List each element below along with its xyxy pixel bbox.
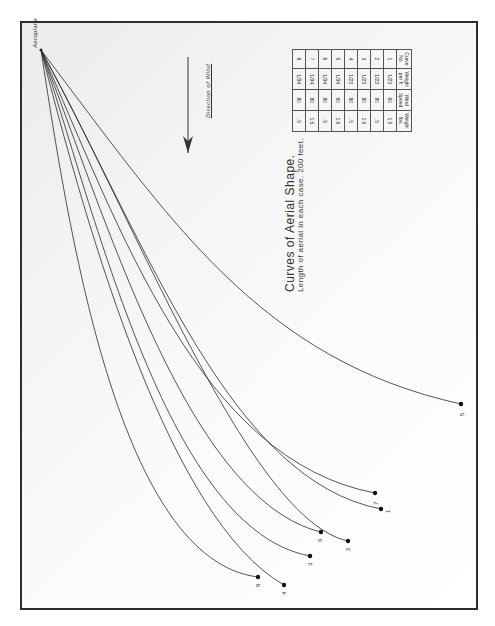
table-header-row: Curve No. Weight per ft. Wind Speed Weig… <box>397 50 412 132</box>
curve-label-6: 6 <box>317 539 323 542</box>
table-cell: 80 <box>306 90 319 110</box>
table-row: 51/34601.5 <box>332 50 345 132</box>
curve-8 <box>41 50 258 577</box>
wind-direction-label: Direction of Wind <box>205 64 211 118</box>
table-cell: 60 <box>384 90 397 110</box>
table-cell: .5 <box>345 110 358 131</box>
table-row: 81/3480.5 <box>293 50 306 132</box>
endpoint-5 <box>459 402 463 406</box>
table-cell: 6 <box>319 50 332 69</box>
table-cell: 1/34 <box>306 68 319 89</box>
table-cell: 1.5 <box>332 110 345 131</box>
table-cell: 3 <box>358 50 371 69</box>
table-row: 71/34801.5 <box>306 50 319 132</box>
table-cell: 80 <box>293 90 306 110</box>
table-cell: .5 <box>319 110 332 131</box>
curve-label-2: 2 <box>345 548 351 551</box>
diagram-title: Curves of Aerial Shape. <box>283 154 297 292</box>
table-cell: 1/23 <box>384 68 397 89</box>
table-cell: 1/23 <box>345 68 358 89</box>
curve-3 <box>41 50 310 556</box>
table-row: 11/23601.5 <box>384 50 397 132</box>
table-cell: 80 <box>371 90 384 110</box>
table-header: Weight lbs. <box>397 110 412 131</box>
endpoint-7 <box>373 491 377 495</box>
curve-label-4: 4 <box>281 592 287 595</box>
table-cell: .5 <box>293 110 306 131</box>
curve-label-3: 3 <box>307 563 313 566</box>
table-cell: 1 <box>384 50 397 69</box>
table-cell: 1.5 <box>306 110 319 131</box>
table-cell: 1/23 <box>358 68 371 89</box>
diagram-subtitle: Length of aerial in each case. 200 feet. <box>296 138 305 292</box>
table-cell: 5 <box>332 50 345 69</box>
table-cell: 1.5 <box>384 110 397 131</box>
aerial-curves-diagram <box>0 0 495 626</box>
table-cell: 1/34 <box>293 68 306 89</box>
wind-arrow-icon <box>183 57 193 153</box>
table-row: 31/23801.5 <box>358 50 371 132</box>
endpoint-4 <box>282 583 286 587</box>
curve-label-5: 5 <box>459 413 465 416</box>
table-cell: 2 <box>371 50 384 69</box>
curve-parameters-table: Curve No. Weight per ft. Wind Speed Weig… <box>292 49 412 132</box>
endpoint-6 <box>319 530 323 534</box>
endpoint-2 <box>346 539 350 543</box>
table-cell: 80 <box>358 90 371 110</box>
aeroplane-label: Aeroplane <box>32 18 38 48</box>
curve-label-1: 1 <box>385 510 391 513</box>
table-row: 21/2380.5 <box>371 50 384 132</box>
curve-label-8: 8 <box>255 584 261 587</box>
endpoint-3 <box>308 554 312 558</box>
table-row: 61/3480.5 <box>319 50 332 132</box>
table-header: Curve No. <box>397 50 412 69</box>
table-cell: 1/34 <box>319 68 332 89</box>
table-cell: 4 <box>345 50 358 69</box>
table-cell: 60 <box>332 90 345 110</box>
table-header: Weight per ft. <box>397 68 412 89</box>
curve-label-7: 7 <box>373 502 379 505</box>
endpoint-8 <box>256 575 260 579</box>
table-header: Wind Speed <box>397 90 412 110</box>
table-cell: 7 <box>306 50 319 69</box>
endpoint-1 <box>379 507 383 511</box>
table-cell: 1.5 <box>358 110 371 131</box>
table-cell: 80 <box>319 90 332 110</box>
table-cell: 1/23 <box>371 68 384 89</box>
table-cell: 1/34 <box>332 68 345 89</box>
table-cell: .5 <box>371 110 384 131</box>
table-cell: 80 <box>345 90 358 110</box>
table-row: 41/2380.5 <box>345 50 358 132</box>
table-cell: 8 <box>293 50 306 69</box>
curve-4 <box>41 50 284 585</box>
